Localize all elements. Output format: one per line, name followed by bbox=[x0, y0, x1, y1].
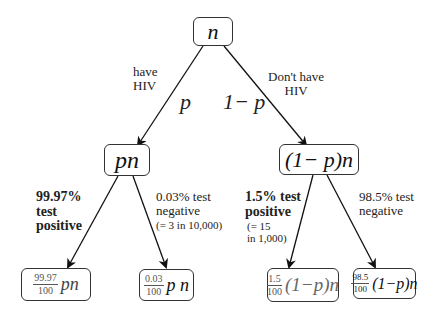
true-positive-node: 99.97 100 pn bbox=[21, 268, 91, 301]
fraction: 1.5 100 bbox=[267, 274, 282, 297]
edge-root-to-pn bbox=[138, 46, 203, 145]
pn-label: pn bbox=[115, 147, 139, 174]
edge-label-1-5-positive: 1.5% test positive bbox=[245, 190, 301, 219]
false-negative-node: 0.03 100 p n bbox=[139, 269, 194, 301]
probability-tree-diagram: n have HIV p 1− p Don't have HIV pn (1− … bbox=[0, 0, 446, 318]
one-minus-p-n-node: (1− p)n bbox=[279, 144, 359, 175]
edge-prob-p: p bbox=[180, 90, 191, 113]
root-node: n bbox=[193, 17, 233, 46]
edge-label-0-03-negative: 0.03% test negative (= 3 in 10,000) bbox=[156, 190, 222, 232]
edge-note-3-in-10000: (= 3 in 10,000) bbox=[156, 220, 222, 232]
fraction: 99.97 100 bbox=[33, 273, 58, 296]
edge-note-15-in-1000: (= 15 in 1,000) bbox=[247, 221, 287, 244]
edge-label-98-5-negative: 98.5% test negative bbox=[359, 190, 414, 217]
fraction: 0.03 100 bbox=[144, 274, 164, 297]
fraction: 98.5 100 bbox=[351, 273, 369, 294]
pn-node: pn bbox=[104, 144, 150, 176]
false-positive-node: 1.5 100 (1−p)n bbox=[267, 268, 339, 302]
true-negative-node: 98.5 100 (1−p)n bbox=[353, 268, 416, 299]
edge-label-dont-have-hiv: Don't have HIV bbox=[268, 70, 324, 97]
edge-label-99-97-positive: 99.97% test positive bbox=[36, 190, 82, 234]
edge-prob-1-minus-p: 1− p bbox=[223, 90, 265, 113]
one-minus-p-n-label: (1− p)n bbox=[285, 147, 353, 173]
root-label: n bbox=[208, 19, 219, 45]
edge-label-have-hiv: have HIV bbox=[133, 65, 158, 92]
